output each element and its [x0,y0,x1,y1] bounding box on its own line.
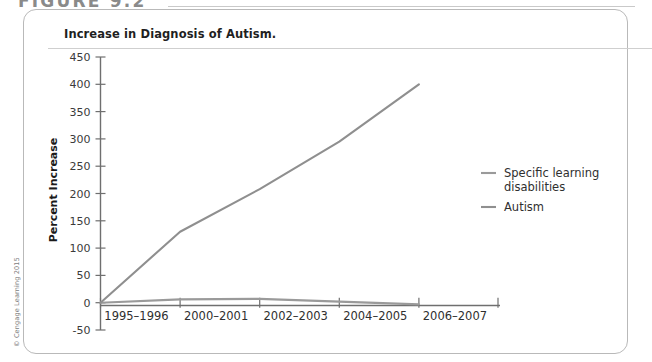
y-axis-tick-label: 0 [84,297,91,310]
chart-legend: Specific learningdisabilitiesAutism [481,166,599,214]
legend-label: Autism [504,200,544,214]
y-axis-tick-label: 450 [70,51,91,64]
y-axis-tick-label: -50 [73,324,91,337]
x-axis-tick-label: 2006–2007 [423,309,487,323]
x-axis-tick-label: 2002–2003 [264,309,328,323]
y-axis-tick-label: 200 [70,188,91,201]
y-axis-tick-label: 150 [70,215,91,228]
y-axis-tick-label: 350 [70,106,91,119]
legend-label: Specific learning [504,166,599,180]
y-axis-tick-label: 100 [70,242,91,255]
y-axis-tick-label: 250 [70,160,91,173]
x-axis-tick-labels: 1995–19962000–20012002–20032004–20052006… [104,309,487,323]
data-series-line [101,84,419,302]
legend-label-continued: disabilities [504,180,565,194]
y-axis-tick-label: 400 [70,78,91,91]
data-series-group [101,84,419,304]
y-axis-tick-label: 50 [77,269,91,282]
x-axis: 1995–19962000–20012002–20032004–20052006… [101,298,501,323]
x-axis-tick-label: 2004–2005 [343,309,407,323]
y-axis-tick-label: 300 [70,133,91,146]
x-axis-tick-label: 1995–1996 [104,309,168,323]
y-axis-tick-labels: -50050100150200250300350400450 [70,51,91,337]
y-axis: -50050100150200250300350400450 Percent I… [47,51,106,337]
y-axis-title: Percent Increase [47,138,60,243]
x-axis-tick-label: 2000–2001 [184,309,248,323]
